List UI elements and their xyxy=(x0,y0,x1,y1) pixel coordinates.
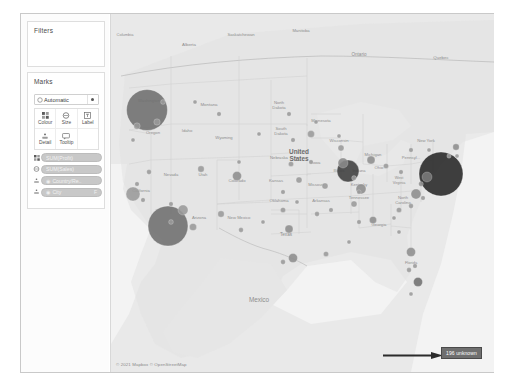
map-label: Utah xyxy=(199,172,209,177)
map-mark-norfolk[interactable] xyxy=(421,196,425,200)
map-mark-chicago-inner[interactable] xyxy=(338,158,348,168)
map-mark-pittsburgh[interactable] xyxy=(399,170,403,174)
map-mark-charlotte[interactable] xyxy=(396,207,401,212)
map-label: New York xyxy=(417,138,436,143)
map-mark-helena[interactable] xyxy=(193,100,197,104)
map-mark-columbia-sc[interactable] xyxy=(392,216,396,220)
map-mark-atlanta[interactable] xyxy=(369,216,376,223)
map-mark-little-rock[interactable] xyxy=(315,212,320,217)
map-mark-milwaukee[interactable] xyxy=(338,145,344,151)
map-label: Alberta xyxy=(182,42,196,47)
map-mark-louisville[interactable] xyxy=(357,190,361,194)
map-mark-birmingham[interactable] xyxy=(357,220,361,224)
size-button[interactable]: Size xyxy=(56,109,77,129)
map-mark-philadelphia[interactable] xyxy=(422,172,432,182)
pill-label: Country/Re.. xyxy=(52,178,97,184)
pill-sum-profit[interactable]: SUM(Profit) xyxy=(41,153,102,162)
map-mark-lubbock[interactable] xyxy=(261,220,265,224)
map-mark-mobile[interactable] xyxy=(347,240,351,244)
map-mark-fargo[interactable] xyxy=(287,112,291,116)
map-label: Arizona xyxy=(192,215,207,220)
map-mark-san-diego[interactable] xyxy=(169,220,174,225)
unknown-marks-badge[interactable]: 196 unknown xyxy=(441,347,482,359)
map-mark-dallas[interactable] xyxy=(285,225,293,233)
map-mark-key-west[interactable] xyxy=(409,292,413,296)
map-mark-fresno[interactable] xyxy=(141,198,145,202)
map-mark-wichita[interactable] xyxy=(281,190,285,194)
map-viewport[interactable]: ColumbiaAlbertaSaskatchewanManitobaOntar… xyxy=(110,14,494,372)
pill-city[interactable]: ◉ City F xyxy=(41,188,102,197)
map-mark-kansas-city[interactable] xyxy=(296,177,302,183)
map-mark-el-paso[interactable] xyxy=(239,228,244,233)
pill-row-country[interactable]: ◉ Country/Re.. xyxy=(32,176,102,185)
pill-row-sales[interactable]: SUM(Sales) xyxy=(32,165,102,174)
pill-country-region[interactable]: ◉ Country/Re.. xyxy=(41,176,102,185)
map-mark-providence[interactable] xyxy=(455,154,459,158)
map-mark-indianapolis[interactable] xyxy=(352,176,357,181)
map-mark-tampa[interactable] xyxy=(407,268,412,273)
map-mark-eugene[interactable] xyxy=(131,138,135,142)
map-mark-reno[interactable] xyxy=(147,170,152,175)
map-mark-sacramento[interactable] xyxy=(135,182,139,186)
map-mark-memphis[interactable] xyxy=(329,208,333,212)
tooltip-button-label: Tooltip xyxy=(60,141,74,146)
map-mark-savannah[interactable] xyxy=(397,230,401,234)
detail-button[interactable]: Detail xyxy=(35,129,56,149)
map-mark-phoenix[interactable] xyxy=(178,205,188,215)
map-mark-duluth[interactable] xyxy=(314,120,318,124)
map-mark-denver[interactable] xyxy=(233,172,242,181)
pill-row-city[interactable]: ◉ City F xyxy=(32,188,102,197)
marks-card[interactable]: Marks Automatic xyxy=(27,72,105,209)
colour-button[interactable]: Colour xyxy=(35,109,56,129)
map-mark-vegas[interactable] xyxy=(169,202,173,206)
map-mark-st-louis[interactable] xyxy=(322,183,328,189)
map-mark-portland[interactable] xyxy=(134,123,140,129)
map-mark-houston[interactable] xyxy=(289,254,298,263)
map-mark-boston[interactable] xyxy=(453,144,459,150)
map-mark-salt-lake[interactable] xyxy=(198,166,204,172)
map-mark-rapid-city[interactable] xyxy=(257,132,261,136)
map-mark-jacksonville[interactable] xyxy=(407,248,416,257)
map-label: Nevada xyxy=(164,172,179,177)
map-mark-albuquerque[interactable] xyxy=(218,211,224,217)
map-mark-des-moines[interactable] xyxy=(309,160,313,164)
pill-label: SUM(Sales) xyxy=(46,166,97,172)
map-mark-tucson[interactable] xyxy=(189,223,196,230)
filters-card[interactable]: Filters xyxy=(27,21,105,67)
map-mark-detroit[interactable] xyxy=(367,156,375,164)
map-mark-syracuse[interactable] xyxy=(427,148,431,152)
map-mark-seattle[interactable] xyxy=(127,90,168,131)
map-mark-sioux-falls[interactable] xyxy=(291,138,295,142)
map-mark-okc[interactable] xyxy=(280,207,285,212)
map-mark-san-antonio[interactable] xyxy=(281,260,286,265)
map-label: Wyoming xyxy=(215,135,233,140)
label-button[interactable]: Label xyxy=(78,109,98,129)
map-mark-richmond[interactable] xyxy=(411,189,421,199)
map-mark-baltimore[interactable] xyxy=(419,182,424,187)
map-mark-tulsa[interactable] xyxy=(295,200,299,204)
map-mark-omaha[interactable] xyxy=(288,161,293,166)
map-mark-buffalo[interactable] xyxy=(409,148,413,152)
map-mark-minneapolis[interactable] xyxy=(308,131,315,138)
map-mark-billings[interactable] xyxy=(217,112,221,116)
map-mark-cheyenne[interactable] xyxy=(237,160,241,164)
tooltip-button[interactable]: Tooltip xyxy=(56,129,77,149)
map-mark-raleigh[interactable] xyxy=(409,204,414,209)
map-mark-boise[interactable] xyxy=(154,119,160,125)
pill-row-profit[interactable]: SUM(Profit) xyxy=(32,153,102,162)
map-mark-spokane[interactable] xyxy=(161,100,166,105)
marks-property-buttons: Colour Size xyxy=(34,108,99,150)
map-mark-new-orleans[interactable] xyxy=(323,251,328,256)
pill-sum-sales[interactable]: SUM(Sales) xyxy=(41,165,102,174)
map-mark-orlando[interactable] xyxy=(413,264,417,268)
map-mark-green-bay[interactable] xyxy=(337,134,341,138)
map-mark-nashville[interactable] xyxy=(351,201,357,207)
mark-type-dropdown[interactable]: Automatic xyxy=(34,94,99,105)
geo-field-icon: ◉ xyxy=(46,189,50,195)
map-mark-miami[interactable] xyxy=(414,278,423,287)
map-mark-cleveland[interactable] xyxy=(383,163,388,168)
map-mark-hartford[interactable] xyxy=(447,154,451,158)
chevron-down-icon[interactable] xyxy=(87,95,97,104)
map-mark-san-francisco[interactable] xyxy=(126,187,140,201)
map-canvas[interactable]: ColumbiaAlbertaSaskatchewanManitobaOntar… xyxy=(111,14,494,372)
